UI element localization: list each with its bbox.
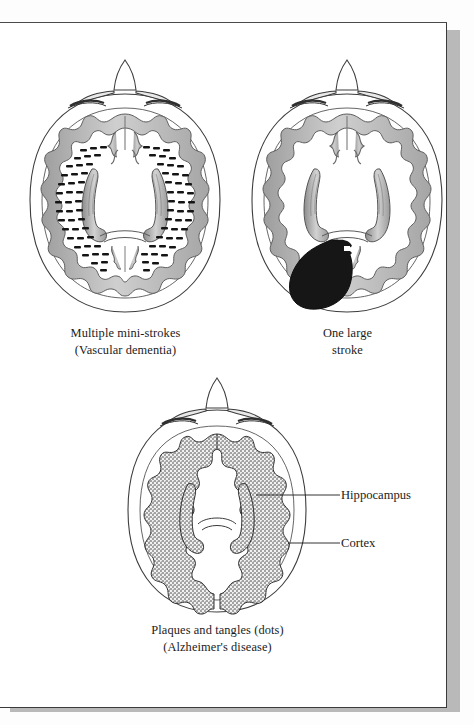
brain-diagram-mini-strokes [18, 50, 233, 325]
caption-line-1: Plaques and tangles (dots) [110, 622, 325, 639]
caption-line-1: One large [240, 325, 455, 342]
caption-alzheimers: Plaques and tangles (dots) (Alzheimer's … [110, 622, 325, 655]
figure-alzheimers [110, 372, 325, 622]
caption-line-1: Multiple mini-strokes [18, 325, 233, 342]
figure-multiple-mini-strokes [18, 50, 233, 325]
caption-one-large-stroke: One large stroke [240, 325, 455, 358]
figure-one-large-stroke [240, 50, 455, 325]
label-cortex: Cortex [341, 536, 375, 551]
caption-line-2: (Vascular dementia) [18, 342, 233, 359]
caption-line-2: stroke [240, 342, 455, 359]
page-top-rule [0, 22, 447, 23]
caption-vascular-dementia: Multiple mini-strokes (Vascular dementia… [18, 325, 233, 358]
brain-diagram-large-stroke [240, 50, 455, 325]
brain-diagram-alzheimers [110, 372, 325, 622]
caption-line-2: (Alzheimer's disease) [110, 639, 325, 656]
label-hippocampus: Hippocampus [341, 488, 411, 503]
